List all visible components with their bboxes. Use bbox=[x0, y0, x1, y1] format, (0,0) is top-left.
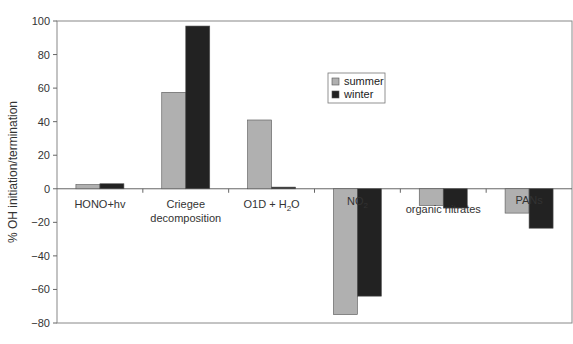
legend-swatch-summer bbox=[332, 78, 339, 85]
category-label: PANs bbox=[515, 194, 543, 206]
bar-summer bbox=[162, 92, 186, 188]
y-tick-label: 80 bbox=[38, 49, 50, 61]
bar-summer bbox=[333, 189, 357, 315]
y-tick-label: 0 bbox=[44, 183, 50, 195]
legend-label-winter: winter bbox=[343, 88, 374, 100]
y-tick-label: 100 bbox=[32, 15, 50, 27]
y-tick-label: −20 bbox=[31, 216, 50, 228]
y-tick-label: −40 bbox=[31, 250, 50, 262]
bar-winter bbox=[100, 184, 124, 189]
y-axis: 100806040200−20−40−60−80 bbox=[31, 15, 57, 329]
legend-swatch-winter bbox=[332, 91, 339, 98]
plot-area bbox=[57, 21, 572, 323]
x-axis-labels: HONO+hvCriegeedecompositionO1D + H2ONO2o… bbox=[74, 194, 543, 224]
y-tick-label: −60 bbox=[31, 283, 50, 295]
legend: summerwinter bbox=[328, 73, 385, 103]
y-tick-label: −80 bbox=[31, 317, 50, 329]
bars bbox=[76, 26, 553, 315]
bar-summer bbox=[76, 185, 100, 189]
bar-winter bbox=[186, 26, 210, 189]
bar-summer bbox=[248, 120, 272, 189]
bar-chart: 100806040200−20−40−60−80 HONO+hvCriegeed… bbox=[0, 0, 573, 344]
bar-winter bbox=[272, 187, 296, 189]
y-tick-label: 40 bbox=[38, 116, 50, 128]
y-axis-title: % OH initiation/termination bbox=[6, 101, 20, 243]
category-label: O1D + H2O bbox=[244, 198, 301, 213]
y-tick-label: 60 bbox=[38, 82, 50, 94]
legend-label-summer: summer bbox=[344, 75, 384, 87]
category-label: organic nitrates bbox=[406, 203, 482, 215]
plot-frame bbox=[57, 21, 572, 323]
category-label: HONO+hv bbox=[74, 198, 126, 210]
y-tick-label: 20 bbox=[38, 149, 50, 161]
category-label: Criegeedecomposition bbox=[150, 198, 221, 224]
